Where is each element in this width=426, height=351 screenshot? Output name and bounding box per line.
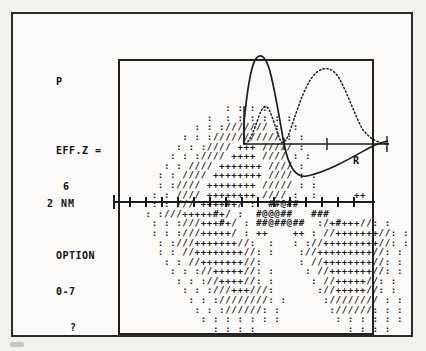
spacer-1 [56,112,126,121]
inset-radial-graph [241,50,391,180]
axis-tick-start [113,195,115,209]
radial-probability-curve [245,69,388,144]
axis-tick [161,197,163,207]
axis-tick [337,197,339,207]
option-label: OPTION [56,250,126,262]
spacer-2 [56,217,126,226]
axis-tick [193,197,195,207]
option-range: 0-7 [56,286,126,298]
scale-label-2nm: 2 NM [47,198,75,209]
inset-axis-label-r: R [353,155,360,166]
terminal-screenshot: P EFF.Z = 6 OPTION 0-7 ? 2 NM : : : : : … [0,0,426,351]
eff-z-label: EFF.Z = [56,145,126,157]
axis-tick [225,197,227,207]
page-smudge [10,342,24,347]
axis-tick [305,197,307,207]
radial-wavefunction-curve [244,56,388,176]
axis-tick [241,197,243,207]
axis-tick-end [372,195,374,209]
axis-tick [257,197,259,207]
scale-axis [113,201,375,203]
axis-tick [145,197,147,207]
input-prompt[interactable]: ? [56,322,126,334]
axis-tick [177,197,179,207]
axis-tick [129,197,131,207]
axis-tick [353,197,355,207]
eff-z-value: 6 [56,181,126,193]
axis-tick [321,197,323,207]
inset-svg [241,50,391,180]
axis-tick [209,197,211,207]
outer-frame: P EFF.Z = 6 OPTION 0-7 ? 2 NM : : : : : … [11,12,413,337]
axis-tick [273,197,275,207]
orbital-label: P [56,76,126,88]
axis-tick [289,197,291,207]
